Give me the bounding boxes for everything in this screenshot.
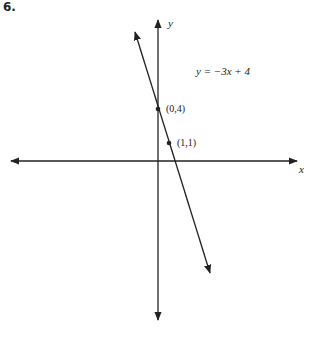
coordinate-plane: y x y = −3x + 4 (0,4) (1,1)	[0, 0, 309, 337]
point-label-1-1: (1,1)	[177, 137, 196, 149]
point-1-1	[167, 141, 172, 146]
x-axis-label: x	[298, 163, 304, 175]
point-label-0-4: (0,4)	[166, 103, 185, 115]
y-axis-label: y	[167, 17, 173, 29]
equation-label: y = −3x + 4	[195, 65, 251, 77]
point-0-4	[156, 107, 161, 112]
